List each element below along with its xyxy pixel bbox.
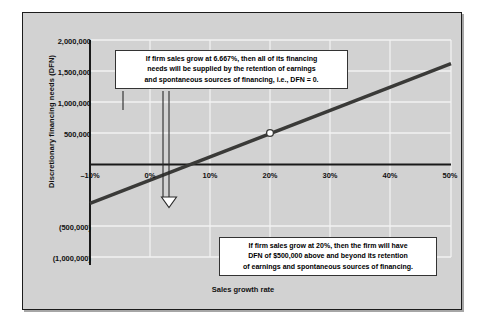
x-tick-label-30: 30%: [310, 171, 350, 180]
annotation-line: If firm sales grow at 20%, then the firm…: [225, 241, 431, 251]
x-tick-label-40: 40%: [370, 171, 410, 180]
annotation-callout-dfn-zero: If firm sales grow at 6.667%, then all o…: [115, 50, 348, 89]
y-axis-title: Discretionary financing needs (DFN): [47, 32, 56, 212]
x-axis-title: Sales growth rate: [23, 285, 462, 294]
x-tick-label-10: 10%: [190, 171, 230, 180]
annotation-line: and spontaneous sources of financing, i.…: [121, 75, 342, 85]
x-tick-label-0: 0%: [130, 171, 170, 180]
annotation-line: of earnings and spontaneous sources of f…: [225, 262, 431, 272]
x-tick-label-minus10: –10%: [70, 171, 110, 180]
annotation-line: needs will be supplied by the retention …: [121, 64, 342, 74]
annotation-callout-dfn-500k: If firm sales grow at 20%, then the firm…: [219, 237, 437, 276]
chart-figure-frame: 2,000,000 1,500,000 1,000,000 500,000 (5…: [22, 12, 462, 310]
annotation-line: DFN of $500,000 above and beyond its ret…: [225, 251, 431, 261]
x-tick-label-50: 50%: [430, 171, 462, 180]
x-tick-label-20: 20%: [250, 171, 290, 180]
annotation-line: If firm sales grow at 6.667%, then all o…: [121, 54, 342, 64]
